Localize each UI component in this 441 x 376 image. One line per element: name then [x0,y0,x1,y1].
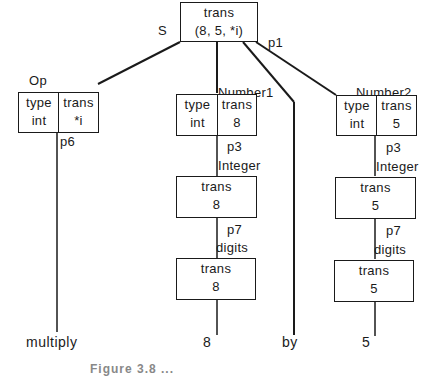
number1-node: type int trans 8 [176,94,257,136]
root-label: S [158,24,167,38]
integer1-cell: trans 8 [177,177,256,217]
integer2-trans-value: 5 [336,197,415,215]
number1-trans-attr: trans [218,96,256,114]
root-node: trans (8, 5, *i) [180,2,258,42]
number2-type-attr: type [337,97,377,115]
number1-type-attr: type [177,96,218,114]
number1-left-cell: type int [177,95,218,135]
root-value: (8, 5, *i) [181,22,257,40]
root-cell: trans (8, 5, *i) [181,3,257,41]
production-p3-left: p3 [227,140,242,154]
digits1-node: trans 8 [176,258,256,300]
integer2-cell: trans 5 [336,178,415,218]
op-trans-value: *i [59,112,98,130]
number1-type-value: int [177,114,218,132]
op-type-attr: type [19,94,59,112]
op-right-cell: trans *i [58,93,98,132]
number2-left-cell: type int [337,96,377,135]
production-p6: p6 [60,135,75,149]
root-attr: trans [181,4,257,22]
number2-trans-value: 5 [377,115,416,133]
digits2-trans-value: 5 [335,280,413,298]
digits2-cell: trans 5 [335,261,413,301]
leaf-5: 5 [362,334,370,350]
number2-type-value: int [337,115,377,133]
digits2-node: trans 5 [334,260,414,302]
number2-right-cell: trans 5 [376,96,416,135]
digits1-trans-attr: trans [177,260,255,278]
production-p7-right: p7 [386,224,401,238]
integer2-node: trans 5 [335,177,416,219]
leaf-by: by [282,334,298,350]
digits1-label: digits [216,241,248,255]
production-p7-left: p7 [227,223,242,237]
leaf-multiply: multiply [26,334,77,350]
op-left-cell: type int [19,93,59,132]
digits1-cell: trans 8 [177,259,255,299]
number1-trans-value: 8 [218,114,256,132]
integer1-trans-attr: trans [177,178,256,196]
integer1-node: trans 8 [176,176,257,218]
figure-caption: Figure 3.8 ... [90,362,174,376]
op-type-value: int [19,112,59,130]
integer1-trans-value: 8 [177,196,256,214]
op-label: Op [29,74,47,88]
number2-trans-attr: trans [377,97,416,115]
digits1-trans-value: 8 [177,278,255,296]
op-trans-attr: trans [59,94,98,112]
production-p1: p1 [268,36,283,50]
number2-node: type int trans 5 [336,95,417,136]
digits2-label: digits [374,243,406,257]
digits2-trans-attr: trans [335,262,413,280]
leaf-8: 8 [203,334,211,350]
op-node: type int trans *i [18,92,99,133]
number1-right-cell: trans 8 [217,95,256,135]
integer2-trans-attr: trans [336,179,415,197]
integer2-label: Integer [376,160,419,174]
production-p3-right: p3 [386,141,401,155]
integer1-label: Integer [218,159,261,173]
